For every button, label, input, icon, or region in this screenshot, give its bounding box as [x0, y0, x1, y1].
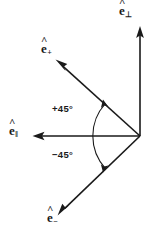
hat-accent-icon: ^ [47, 204, 53, 215]
e-parallel-label: ^ e ‖ [9, 124, 18, 139]
e-perp-label: ^ e ⊥ [119, 4, 132, 19]
angle-label-positive: +45° [52, 104, 73, 114]
angle-label-negative: −45° [52, 150, 73, 160]
e-perp-vector [136, 26, 144, 136]
e-parallel-label-glyph: ^ e [9, 124, 15, 137]
hat-accent-icon: ^ [119, 0, 125, 8]
e-parallel-label-subscript: ‖ [15, 130, 18, 139]
e-plus-label-glyph: ^ e [41, 42, 47, 55]
vector-diagram-figure: ^ e ⊥ ^ e + ^ e ‖ ^ e − +45° −45° [0, 0, 154, 236]
e-minus-label: ^ e − [47, 211, 58, 226]
e-plus-label: ^ e + [41, 42, 52, 57]
e-minus-vector [58, 136, 140, 215]
e-minus-vector-shaft [65, 136, 140, 208]
e-plus-label-subscript: + [47, 48, 52, 57]
e-minus-label-subscript: − [53, 217, 58, 226]
e-plus-vector [56, 60, 141, 136]
e-minus-label-glyph: ^ e [47, 211, 53, 224]
e-perp-label-glyph: ^ e [119, 4, 125, 17]
hat-accent-icon: ^ [9, 117, 15, 128]
hat-accent-icon: ^ [41, 35, 47, 46]
vector-diagram-canvas [0, 0, 154, 236]
e-parallel-vector [33, 132, 141, 140]
e-perp-label-subscript: ⊥ [125, 10, 133, 19]
e-plus-vector-shaft [63, 66, 141, 136]
